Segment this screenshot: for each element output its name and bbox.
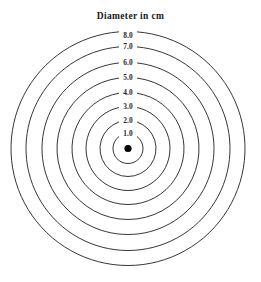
ring-label: 2.0 <box>122 117 135 124</box>
ring-label: 3.0 <box>122 103 135 110</box>
ring-label: 6.0 <box>122 59 135 66</box>
center-dot-marker <box>124 145 131 152</box>
ring-label: 8.0 <box>122 32 135 39</box>
ring-label: 1.0 <box>122 130 135 137</box>
ring-label: 5.0 <box>122 74 135 81</box>
diameter-scale-figure: Diameter in cm 1.02.03.04.05.06.07.08.0 <box>0 0 261 282</box>
ring-label: 7.0 <box>122 43 135 50</box>
ring-label: 4.0 <box>122 89 135 96</box>
